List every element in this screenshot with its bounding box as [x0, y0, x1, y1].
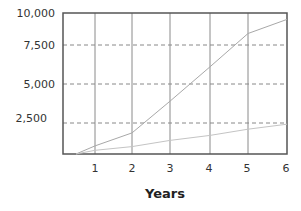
series-upper-line — [76, 19, 287, 154]
x-tick-1: 1 — [92, 162, 99, 175]
x-axis-title: Years — [144, 186, 185, 201]
y-tick-5000: 5,000 — [24, 78, 56, 91]
horizontal-gridlines — [63, 45, 287, 123]
y-tick-2500: 2,500 — [16, 112, 48, 125]
x-tick-5: 5 — [244, 162, 251, 175]
x-tick-4: 4 — [206, 162, 213, 175]
x-tick-3: 3 — [167, 162, 174, 175]
x-tick-2: 2 — [129, 162, 136, 175]
y-tick-7500: 7,500 — [24, 39, 56, 52]
y-tick-10000: 10,000 — [17, 7, 56, 20]
x-tick-6: 6 — [283, 162, 290, 175]
line-chart: 10,000 7,500 5,000 2,500 1 2 3 4 5 6 Yea… — [0, 0, 301, 211]
series-lower-line — [76, 124, 287, 154]
